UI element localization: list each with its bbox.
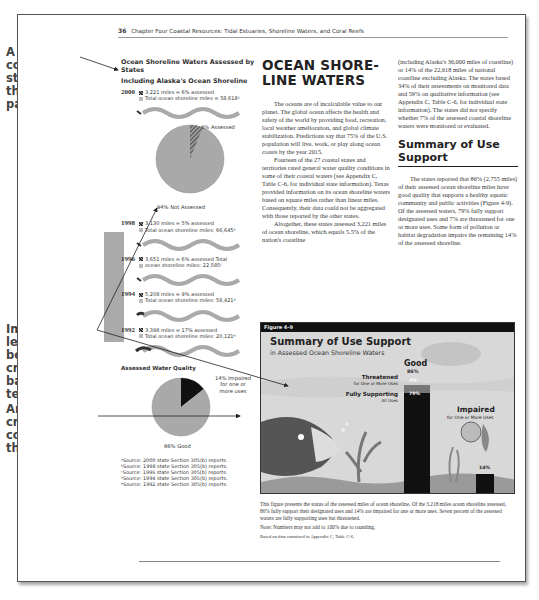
- year-label: 1998: [121, 220, 139, 232]
- assessed-text: 3,651 miles = 6% assessed Total: [145, 256, 227, 262]
- caption-text: This figure presents the status of the a…: [260, 501, 515, 522]
- subsection-heading: Summary of Use Support: [398, 139, 518, 167]
- fully-supporting-label: Fully Supporting: [346, 391, 398, 397]
- impaired-sublabel: for One or More Uses: [447, 415, 493, 420]
- figure-4-9: Figure 4-9 Summary of Use Support in Ass…: [260, 322, 515, 494]
- shoreline-wave-icon: [135, 273, 245, 287]
- paragraph: The states reported that 86% (2,755 mile…: [398, 175, 518, 247]
- year-label: 1994: [121, 291, 139, 303]
- section-heading: OCEAN SHORE-LINE WATERS: [262, 58, 390, 88]
- assessed-text: 3,221 miles = 6% assessed: [145, 89, 214, 95]
- fully-supporting-value: 79%: [409, 391, 420, 396]
- threatened-label: Threatened: [362, 374, 398, 380]
- year-label: 2000: [121, 89, 139, 101]
- impaired-value: 14%: [479, 465, 490, 470]
- assessed-text: 3,398 miles = 17% assessed: [145, 327, 217, 333]
- sidebar-title: Ocean Shoreline Waters Assessed by State…: [121, 58, 256, 74]
- figure-label: Figure 4-9: [261, 323, 514, 332]
- shoreline-wave-icon: [135, 344, 245, 358]
- year-row-2000: 2000 3,221 miles = 6% assessedTotal ocea…: [121, 89, 256, 101]
- assessed-swatch-icon: [139, 222, 143, 226]
- assessed-swatch-icon: [139, 293, 143, 297]
- year-row-1996: 1996 3,651 miles = 6% assessed Totalocea…: [121, 256, 256, 268]
- paragraph: Fourteen of the 27 coastal states and te…: [262, 156, 390, 220]
- assessed-swatch-icon: [139, 257, 143, 261]
- year-row-1998: 1998 3,130 miles = 5% assessedTotal ocea…: [121, 220, 256, 232]
- total-swatch-icon: [139, 334, 143, 338]
- fully-supporting-sublabel: All Uses: [381, 398, 398, 403]
- threatened-sublabel: for One or More Uses: [354, 381, 398, 386]
- assessed-pie-label: 6% Assessed: [201, 124, 235, 130]
- body-text: The states reported that 86% (2,755 mile…: [398, 175, 518, 247]
- figure-title: Summary of Use Support: [270, 336, 411, 347]
- shoreline-wave-icon: [135, 106, 245, 120]
- sidebar-subtitle: Including Alaska's Ocean Shoreline: [121, 77, 256, 85]
- impaired-pie-label: 14% Impaired for one or more uses: [213, 375, 253, 394]
- impaired-bar: [476, 474, 494, 494]
- figure-caption: This figure presents the status of the a…: [260, 499, 515, 540]
- page-number: 36: [118, 27, 126, 34]
- good-pie-label: 86% Good: [164, 443, 191, 449]
- source-notes: ᵃSource: 2000 state Section 305(b) repor…: [121, 457, 256, 487]
- shoreline-wave-icon: [135, 238, 245, 252]
- pie-chart-2000: [155, 124, 225, 194]
- body-text-continued: (including Alaska's 36,000 miles of coas…: [398, 58, 518, 130]
- good-value: 86%: [407, 369, 418, 374]
- chapter-title: Chapter Four Coastal Resources: Tidal Es…: [131, 28, 364, 34]
- assessed-text: 3,130 miles = 5% assessed: [145, 220, 214, 226]
- year-label: 1992: [121, 327, 139, 339]
- total-text: ocean shoreline miles: 22,585ᶜ: [145, 262, 222, 268]
- right-column: (including Alaska's 36,000 miles of coas…: [398, 58, 518, 247]
- caption-source: Based on data contained in Appendix C, T…: [260, 533, 515, 540]
- total-swatch-icon: [139, 264, 143, 268]
- total-text: Total ocean shoreline miles: 58,421ᵈ: [145, 297, 236, 303]
- not-assessed-pie-label: 94% Not Assessed: [157, 204, 205, 210]
- year-row-1994: 1994 5,208 miles = 9% assessedTotal ocea…: [121, 291, 256, 303]
- year-row-1992: 1992 3,398 miles = 17% assessedTotal oce…: [121, 327, 256, 339]
- caption-note: Note: Numbers may not add to 100% due to…: [260, 524, 515, 531]
- bottom-rule: [139, 561, 500, 562]
- running-head: 36 Chapter Four Coastal Resources: Tidal…: [118, 27, 508, 38]
- shoreline-wave-icon: [135, 309, 245, 323]
- total-text: Total ocean shoreline miles: 20,121ᵉ: [145, 333, 236, 339]
- pie-water-quality: 14% Impaired for one or more uses 86% Go…: [121, 371, 256, 453]
- figure-subtitle: in Assessed Ocean Shoreline Waters: [270, 349, 385, 356]
- good-label: Good: [404, 359, 427, 368]
- paragraph: Altogether, these states assessed 3,221 …: [262, 220, 390, 244]
- body-text: The oceans are of incalculable value to …: [262, 100, 390, 244]
- assessed-swatch-icon: [139, 91, 143, 95]
- fully-supporting-bar: [404, 422, 430, 494]
- middle-column: OCEAN SHORE-LINE WATERS The oceans are o…: [262, 58, 390, 244]
- year-label: 1996: [121, 256, 139, 268]
- pie-2000-assessed: 6% Assessed 94% Not Assessed: [121, 120, 256, 216]
- assessed-text: 5,208 miles = 9% assessed: [145, 291, 214, 297]
- total-text: Total ocean shoreline miles: 66,645ᵇ: [145, 227, 236, 233]
- total-text: Total ocean shoreline miles = 58,618ᵃ: [145, 95, 240, 101]
- pie-chart-water-quality: [151, 377, 211, 437]
- threatened-value: 7%: [409, 378, 417, 383]
- paragraph: The oceans are of incalculable value to …: [262, 100, 390, 156]
- source-note: ᵉSource: 1992 state Section 305(b) repor…: [121, 481, 256, 487]
- total-swatch-icon: [139, 228, 143, 232]
- left-column: Ocean Shoreline Waters Assessed by State…: [121, 58, 256, 488]
- impaired-label: Impaired: [457, 405, 495, 414]
- total-swatch-icon: [139, 299, 143, 303]
- assessed-swatch-icon: [139, 328, 143, 332]
- total-swatch-icon: [139, 97, 143, 101]
